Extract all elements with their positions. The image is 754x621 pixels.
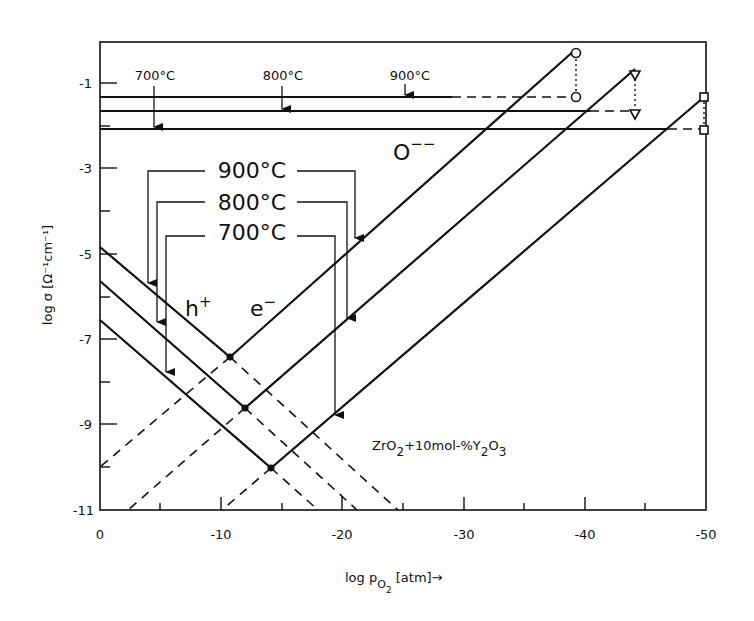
conductivity-chart: -1 -3 -5 -7 -9 -11 0 -10 -20 -30 -40 -50… bbox=[0, 0, 754, 621]
end-markers bbox=[572, 49, 709, 135]
svg-text:-5: -5 bbox=[79, 247, 92, 262]
circle-marker-top bbox=[572, 49, 581, 58]
holes-label: h+ bbox=[185, 293, 212, 321]
svg-text:-40: -40 bbox=[574, 527, 595, 542]
svg-text:-9: -9 bbox=[79, 417, 92, 432]
svg-text:-50: -50 bbox=[695, 527, 716, 542]
y-axis-ticks bbox=[100, 83, 117, 467]
svg-text:700°C: 700°C bbox=[135, 68, 175, 83]
triangle-marker-bottom bbox=[630, 110, 640, 119]
svg-text:800°C: 800°C bbox=[218, 190, 286, 215]
svg-text:-10: -10 bbox=[210, 527, 231, 542]
svg-text:900°C: 900°C bbox=[390, 68, 430, 83]
svg-text:-11: -11 bbox=[73, 503, 94, 518]
triangle-marker-top bbox=[630, 71, 640, 80]
x-axis-title: log pO2 [atm]→ bbox=[345, 570, 443, 595]
x-tick-labels: 0 -10 -20 -30 -40 -50 bbox=[96, 527, 717, 542]
plot-frame bbox=[100, 42, 706, 510]
svg-text:800°C: 800°C bbox=[263, 68, 303, 83]
svg-text:900°C: 900°C bbox=[218, 158, 286, 183]
svg-text:0: 0 bbox=[96, 527, 104, 542]
electrons-label: e− bbox=[250, 293, 276, 321]
oxygen-ion-label: O−− bbox=[393, 135, 435, 165]
y-axis-title: log σ [Ω⁻¹cm⁻¹] bbox=[40, 225, 55, 325]
svg-text:ZrO2+10mol-%Y2O3: ZrO2+10mol-%Y2O3 bbox=[372, 438, 506, 459]
svg-text:-20: -20 bbox=[331, 527, 352, 542]
square-marker-bottom bbox=[700, 126, 708, 134]
svg-text:-1: -1 bbox=[79, 76, 92, 91]
ionic-lines bbox=[100, 97, 704, 129]
dashed-extrapolations bbox=[100, 357, 398, 510]
svg-text:-3: -3 bbox=[79, 161, 92, 176]
x-axis-ticks bbox=[160, 497, 645, 510]
svg-text:-7: -7 bbox=[79, 332, 92, 347]
composition-annotation: ZrO2+10mol-%Y2O3 bbox=[372, 438, 506, 459]
bracket-temperature-labels: 900°C 800°C 700°C bbox=[148, 158, 355, 415]
svg-text:700°C: 700°C bbox=[218, 220, 286, 245]
svg-text:-30: -30 bbox=[453, 527, 474, 542]
y-tick-labels: -1 -3 -5 -7 -9 -11 bbox=[73, 76, 94, 518]
svg-text:log pO2 [atm]→: log pO2 [atm]→ bbox=[345, 570, 443, 595]
square-marker-top bbox=[700, 93, 708, 101]
circle-marker-bottom bbox=[572, 93, 581, 102]
